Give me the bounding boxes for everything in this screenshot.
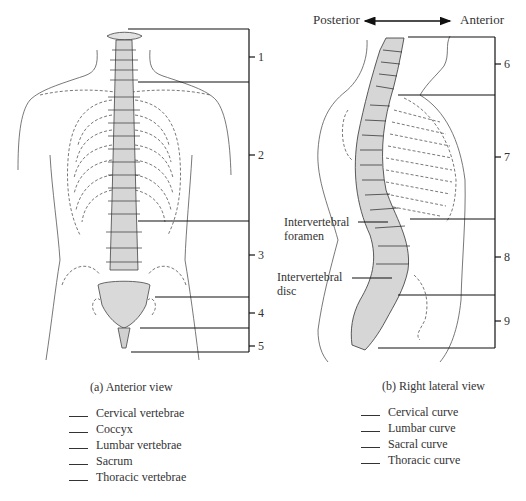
bracket-number-8: 8	[504, 251, 510, 263]
bracket-number-3: 3	[258, 249, 264, 261]
answer-blank[interactable]	[361, 415, 380, 416]
bracket-number-9: 9	[504, 315, 510, 327]
answer-item[interactable]: Thoracic curve	[361, 452, 460, 468]
answer-item[interactable]: Thoracic vertebrae	[69, 469, 186, 485]
anterior-spine-drawing	[98, 32, 150, 348]
lateral-answer-list: Cervical curve Lumbar curve Sacral curve…	[361, 404, 460, 468]
intervertebral-foramen-label: Intervertebral foramen	[284, 215, 349, 243]
answer-item[interactable]: Sacral curve	[361, 436, 460, 452]
anterior-view-caption: (a) Anterior view	[90, 380, 173, 395]
answer-item[interactable]: Sacrum	[69, 453, 186, 469]
answer-item[interactable]: Cervical vertebrae	[69, 405, 186, 421]
bracket-number-2: 2	[258, 149, 264, 161]
answer-blank[interactable]	[361, 463, 380, 464]
answer-blank[interactable]	[361, 447, 380, 448]
answer-item[interactable]: Cervical curve	[361, 404, 460, 420]
bracket-number-1: 1	[258, 51, 264, 63]
answer-blank[interactable]	[69, 416, 88, 417]
answer-item[interactable]: Lumbar curve	[361, 420, 460, 436]
answer-blank[interactable]	[69, 464, 88, 465]
answer-blank[interactable]	[361, 431, 380, 432]
answer-blank[interactable]	[69, 480, 88, 481]
bracket-number-4: 4	[258, 307, 264, 319]
answer-item[interactable]: Lumbar vertebrae	[69, 437, 186, 453]
lateral-view-caption: (b) Right lateral view	[382, 379, 485, 394]
answer-blank[interactable]	[69, 448, 88, 449]
lateral-spine-drawing	[351, 38, 410, 350]
bracket-number-6: 6	[504, 58, 510, 70]
anterior-label: Anterior	[460, 13, 504, 27]
answer-blank[interactable]	[69, 432, 88, 433]
posterior-label: Posterior	[313, 13, 360, 27]
bracket-number-5: 5	[258, 340, 264, 352]
answer-item[interactable]: Coccyx	[69, 421, 186, 437]
intervertebral-disc-label: Intervertebral disc	[277, 270, 342, 298]
bracket-number-7: 7	[504, 151, 510, 163]
anterior-answer-list: Cervical vertebrae Coccyx Lumbar vertebr…	[69, 405, 186, 485]
